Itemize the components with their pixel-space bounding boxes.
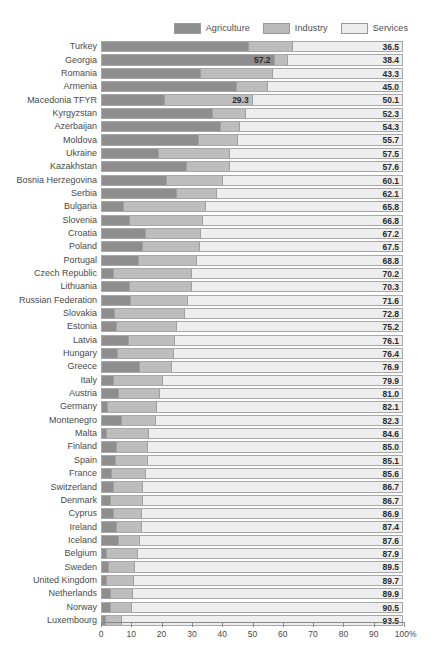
axis-tick-label: 20 xyxy=(157,629,166,639)
category-label-poland: Poland xyxy=(0,241,101,252)
category-label-turkey: Turkey xyxy=(0,41,101,52)
value-label-services: 85.6 xyxy=(145,469,402,480)
stacked-bar[interactable]: 57.6 xyxy=(101,161,403,172)
stacked-bar[interactable]: 43.3 xyxy=(101,68,403,79)
stacked-bar[interactable]: 76.9 xyxy=(101,361,403,372)
stacked-bar[interactable]: 79.9 xyxy=(101,375,403,386)
category-label-bosnia-herzegovina: Bosnia Herzegovina xyxy=(0,175,101,186)
stacked-bar[interactable]: 87.4 xyxy=(101,521,403,532)
segment-agriculture xyxy=(102,469,111,478)
axis-tick xyxy=(131,622,132,627)
segment-industry xyxy=(158,149,229,158)
legend-item-agriculture[interactable]: Agriculture xyxy=(174,23,250,34)
stacked-bar[interactable]: 81.0 xyxy=(101,388,403,399)
chart-row: Macedonia TFYR50.129.3 xyxy=(0,93,432,106)
x-axis: 0102030405060708090100% xyxy=(101,622,405,662)
stacked-bar[interactable]: 85.0 xyxy=(101,441,403,452)
value-label-services: 89.5 xyxy=(134,562,403,573)
category-label-croatia: Croatia xyxy=(0,228,101,239)
stacked-bar[interactable]: 76.4 xyxy=(101,348,403,359)
stacked-bar[interactable]: 71.6 xyxy=(101,295,403,306)
axis-tick-label: 10 xyxy=(127,629,136,639)
stacked-bar[interactable]: 82.3 xyxy=(101,415,403,426)
legend-swatch-icon-agriculture xyxy=(174,23,201,34)
stacked-bar[interactable]: 50.129.3 xyxy=(101,94,403,105)
stacked-bar[interactable]: 36.5 xyxy=(101,41,403,52)
segment-agriculture xyxy=(102,522,116,531)
segment-agriculture xyxy=(102,536,118,545)
segment-agriculture xyxy=(102,216,129,225)
stacked-bar[interactable]: 82.1 xyxy=(101,401,403,412)
stacked-bar[interactable]: 72.8 xyxy=(101,308,403,319)
stacked-bar[interactable]: 89.9 xyxy=(101,588,403,599)
value-label-services: 72.8 xyxy=(184,309,402,320)
stacked-bar[interactable]: 85.6 xyxy=(101,468,403,479)
stacked-bar[interactable]: 87.6 xyxy=(101,535,403,546)
value-label-services: 45.0 xyxy=(267,82,402,93)
value-label-services: 66.8 xyxy=(202,216,402,227)
stacked-bar[interactable]: 65.8 xyxy=(101,201,403,212)
value-label-services: 70.3 xyxy=(191,282,402,293)
chart-row: Moldova55.7 xyxy=(0,133,432,146)
stacked-bar[interactable]: 45.0 xyxy=(101,81,403,92)
stacked-bar[interactable]: 52.3 xyxy=(101,108,403,119)
stacked-bar[interactable]: 67.5 xyxy=(101,241,403,252)
axis-tick-label: 50 xyxy=(248,629,257,639)
segment-industry xyxy=(116,322,177,331)
stacked-bar[interactable]: 55.7 xyxy=(101,134,403,145)
stacked-bar[interactable]: 54.3 xyxy=(101,121,403,132)
stacked-bar[interactable]: 89.7 xyxy=(101,575,403,586)
axis-tick-label: 40 xyxy=(217,629,226,639)
stacked-bar[interactable]: 57.5 xyxy=(101,148,403,159)
segment-industry xyxy=(248,42,292,51)
segment-industry xyxy=(110,589,133,598)
chart-row: Belgium87.9 xyxy=(0,547,432,560)
category-label-armenia: Armenia xyxy=(0,81,101,92)
stacked-bar[interactable]: 60.1 xyxy=(101,175,403,186)
stacked-bar[interactable]: 70.3 xyxy=(101,281,403,292)
legend-label-agriculture: Agriculture xyxy=(206,23,250,33)
stacked-bar[interactable]: 90.5 xyxy=(101,602,403,613)
value-label-agriculture: 57.2 xyxy=(102,55,274,66)
segment-agriculture xyxy=(102,256,138,265)
segment-industry xyxy=(166,176,222,185)
category-label-finland: Finland xyxy=(0,441,101,452)
segment-agriculture xyxy=(102,242,142,251)
stacked-bar[interactable]: 66.8 xyxy=(101,215,403,226)
value-label-services: 67.5 xyxy=(200,242,403,253)
segment-agriculture xyxy=(102,496,110,505)
stacked-bar[interactable]: 86.9 xyxy=(101,508,403,519)
chart-row: Ireland87.4 xyxy=(0,520,432,533)
segment-industry xyxy=(111,469,146,478)
category-label-switzerland: Switzerland xyxy=(0,482,101,493)
stacked-bar[interactable]: 87.9 xyxy=(101,548,403,559)
stacked-bar[interactable]: 62.1 xyxy=(101,188,403,199)
segment-agriculture xyxy=(102,135,198,144)
segment-industry xyxy=(106,429,148,438)
category-label-luxembourg: Luxembourg xyxy=(0,615,101,626)
segment-agriculture xyxy=(102,416,121,425)
stacked-bar[interactable]: 85.1 xyxy=(101,455,403,466)
stacked-bar[interactable]: 67.2 xyxy=(101,228,403,239)
category-label-slovakia: Slovakia xyxy=(0,308,101,319)
segment-agriculture xyxy=(102,229,145,238)
category-label-kazakhstan: Kazakhstan xyxy=(0,161,101,172)
stacked-bar[interactable]: 86.7 xyxy=(101,481,403,492)
legend-item-services[interactable]: Services xyxy=(341,23,408,34)
value-label-services: 87.6 xyxy=(139,536,402,547)
category-label-russian-federation: Russian Federation xyxy=(0,295,101,306)
legend-item-industry[interactable]: Industry xyxy=(263,23,328,34)
legend-swatch-icon-industry xyxy=(263,23,290,34)
stacked-bar[interactable]: 70.2 xyxy=(101,268,403,279)
stacked-bar[interactable]: 84.6 xyxy=(101,428,403,439)
segment-agriculture xyxy=(102,95,164,104)
segment-industry xyxy=(121,416,155,425)
stacked-bar[interactable]: 75.2 xyxy=(101,321,403,332)
category-label-bulgaria: Bulgaria xyxy=(0,201,101,212)
stacked-bar[interactable]: 86.7 xyxy=(101,495,403,506)
stacked-bar[interactable]: 68.8 xyxy=(101,255,403,266)
stacked-bar[interactable]: 38.457.2 xyxy=(101,54,403,65)
category-label-georgia: Georgia xyxy=(0,55,101,66)
stacked-bar[interactable]: 89.5 xyxy=(101,561,403,572)
stacked-bar[interactable]: 76.1 xyxy=(101,335,403,346)
